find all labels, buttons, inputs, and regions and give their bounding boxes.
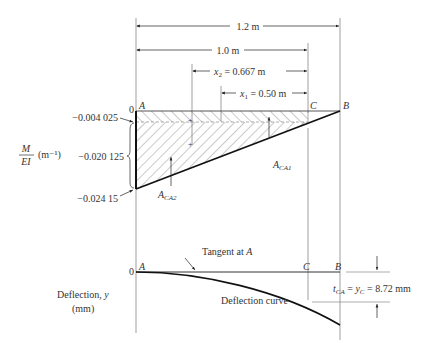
- area2-label: ACA2: [157, 189, 177, 202]
- svg-text:+: +: [188, 140, 193, 149]
- value-3: −0.024 15: [77, 193, 118, 204]
- dimension-lines: [137, 26, 339, 93]
- dim-ac: 1.0 m: [217, 45, 240, 56]
- point-b-deflection: B: [335, 261, 341, 272]
- point-a-deflection: A: [138, 261, 146, 272]
- area1-label: ACA1: [272, 159, 292, 172]
- moment-area-diagram: + + 1.2 m 1.0 m x2 = 0.667 m x1 = 0.50 m…: [0, 0, 432, 348]
- brace: [127, 123, 134, 188]
- point-a-label: A: [138, 100, 146, 111]
- ylabel-unit: (m⁻¹): [38, 149, 61, 161]
- value-2: −0.020 125: [78, 151, 124, 162]
- dim-x2: x2 = 0.667 m: [213, 66, 266, 79]
- ylabel-numerator: M: [21, 143, 31, 154]
- ylabel-denominator: EI: [20, 156, 31, 167]
- point-c-label: C: [310, 100, 317, 111]
- tangent-label: Tangent at A: [202, 246, 253, 257]
- dim-x1: x1 = 0.50 m: [239, 88, 287, 101]
- area-rectangle: [136, 111, 308, 122]
- deflection-ylabel-line1: Deflection, y: [57, 289, 109, 300]
- value-1: −0.004 025: [72, 112, 118, 123]
- curve-label: Deflection curve: [221, 295, 288, 306]
- dim-total: 1.2 m: [237, 21, 260, 32]
- deflection-ylabel-line2: (mm): [72, 303, 94, 315]
- point-c-deflection: C: [303, 261, 310, 272]
- deflection-result: tCA = yC = 8.72 mm: [333, 283, 411, 296]
- zero-label-moment: 0: [129, 104, 134, 115]
- svg-text:+: +: [188, 116, 193, 125]
- zero-label-deflection: 0: [129, 266, 134, 277]
- point-b-label: B: [343, 100, 349, 111]
- moment-areas: + +: [136, 111, 340, 189]
